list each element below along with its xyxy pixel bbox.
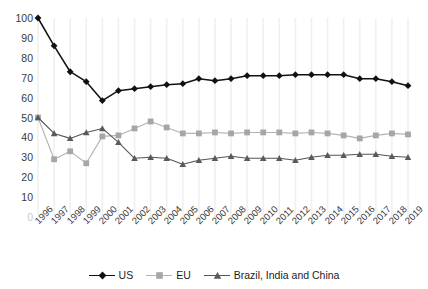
chart-container: 1020304050607080901000 19961997199819992… xyxy=(0,0,428,289)
data-point-marker xyxy=(67,68,74,75)
data-point-marker xyxy=(195,75,202,82)
data-point-marker xyxy=(228,153,235,159)
legend-item-us[interactable]: US xyxy=(89,269,134,281)
series-lines xyxy=(38,18,408,164)
data-point-marker xyxy=(99,134,105,140)
data-point-marker xyxy=(292,71,299,78)
legend-item-eu[interactable]: EU xyxy=(146,269,191,281)
data-point-marker xyxy=(228,75,235,82)
data-point-marker xyxy=(308,71,315,78)
data-point-marker xyxy=(180,131,186,137)
data-point-marker xyxy=(340,71,347,78)
data-point-marker xyxy=(276,130,282,136)
data-point-marker xyxy=(83,160,89,166)
data-point-marker xyxy=(357,135,363,141)
triangle-marker-icon xyxy=(204,270,230,281)
diamond-marker-icon xyxy=(89,270,115,281)
data-point-marker xyxy=(389,131,395,137)
data-point-marker xyxy=(148,119,154,125)
data-point-marker xyxy=(244,72,251,79)
x-axis-tick-labels: 1996199719981999200020012002200320042005… xyxy=(0,219,428,265)
data-point-marker xyxy=(51,156,57,162)
data-point-marker xyxy=(325,131,331,137)
data-point-marker xyxy=(292,131,298,137)
data-point-marker xyxy=(405,82,412,89)
chart-legend: USEUBrazil, India and China xyxy=(0,264,428,286)
vertical-gridlines xyxy=(38,18,408,217)
data-point-marker xyxy=(163,81,170,88)
data-point-marker xyxy=(212,77,219,84)
data-point-marker xyxy=(260,130,266,136)
data-point-marker xyxy=(35,15,42,22)
data-point-marker xyxy=(228,131,234,137)
data-point-marker xyxy=(179,80,186,87)
data-point-marker xyxy=(51,42,58,49)
data-point-marker xyxy=(212,130,218,136)
data-point-marker xyxy=(115,87,122,94)
data-point-marker xyxy=(196,131,202,137)
legend-label: Brazil, India and China xyxy=(233,269,340,281)
series-markers xyxy=(35,15,412,167)
data-point-marker xyxy=(405,132,411,138)
data-point-marker xyxy=(309,130,315,136)
legend-item-brazil-india-and-china[interactable]: Brazil, India and China xyxy=(204,269,340,281)
data-point-marker xyxy=(372,75,379,82)
legend-label: US xyxy=(118,269,134,281)
data-point-marker xyxy=(324,71,331,78)
data-point-marker xyxy=(341,133,347,139)
data-point-marker xyxy=(132,126,138,132)
data-point-marker xyxy=(147,83,154,90)
data-point-marker xyxy=(164,125,170,131)
data-point-marker xyxy=(373,133,379,139)
data-point-marker xyxy=(356,75,363,82)
data-point-marker xyxy=(260,72,267,79)
data-point-marker xyxy=(389,78,396,85)
legend-label: EU xyxy=(175,269,191,281)
data-point-marker xyxy=(99,125,106,131)
data-point-marker xyxy=(276,72,283,79)
square-marker-icon xyxy=(146,270,172,281)
data-point-marker xyxy=(244,130,250,136)
data-point-marker xyxy=(116,133,122,139)
data-point-marker xyxy=(131,85,138,92)
data-point-marker xyxy=(67,148,73,154)
